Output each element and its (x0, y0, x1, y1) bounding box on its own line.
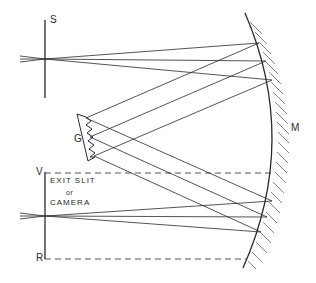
or-text: or (66, 189, 73, 196)
spectrograph-diagram (0, 0, 316, 283)
concave-mirror (243, 13, 289, 269)
diffracted-beam (86, 118, 272, 232)
grating-label: G (74, 134, 82, 144)
camera-text: CAMERA (50, 199, 90, 207)
entrance-slit-label: S (50, 15, 57, 25)
exit-bottom-label: R (36, 253, 43, 263)
exit-plane (45, 172, 275, 259)
entrance-slit (20, 20, 272, 98)
exit-top-label: V (36, 167, 43, 177)
mirror-label: M (291, 123, 299, 133)
exit-slit-text: EXIT SLIT (50, 177, 96, 185)
